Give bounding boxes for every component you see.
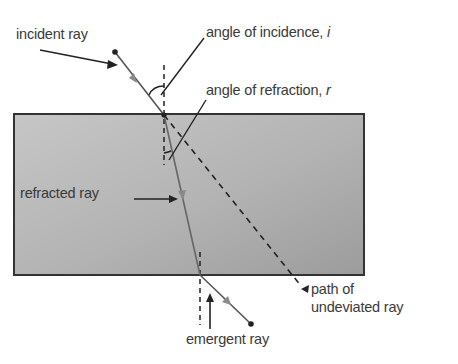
label-refracted-ray: refracted ray xyxy=(20,186,99,201)
angle-of-incidence-leader xyxy=(161,38,204,95)
label-emergent-ray: emergent ray xyxy=(186,332,269,347)
emergent-ray-end-dot xyxy=(248,321,254,327)
symbol-i: i xyxy=(327,24,330,40)
label-path-of-undeviated-ray-line1: path of xyxy=(311,282,354,297)
incident-ray xyxy=(115,52,164,115)
symbol-r: r xyxy=(326,82,331,98)
undeviated-arrowhead-icon xyxy=(301,285,309,293)
label-angle-of-refraction-text: angle of refraction, xyxy=(206,82,326,98)
label-angle-of-incidence-text: angle of incidence, xyxy=(206,24,327,40)
label-path-of-undeviated-ray-line2: undeviated ray xyxy=(311,300,403,315)
incidence-point-dot xyxy=(161,112,166,117)
label-incident-ray: incident ray xyxy=(16,27,88,42)
emergent-ray-pointer-arrowhead-icon xyxy=(206,293,214,302)
incident-ray-pointer xyxy=(40,50,112,64)
label-angle-of-refraction: angle of refraction, r xyxy=(206,83,331,98)
incident-ray-start-dot xyxy=(112,49,118,55)
incident-ray-pointer-arrowhead-icon xyxy=(107,60,118,69)
label-angle-of-incidence: angle of incidence, i xyxy=(206,25,330,40)
